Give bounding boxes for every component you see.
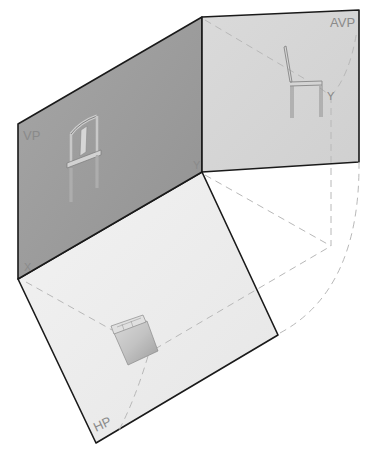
- x-axis-label: X: [24, 261, 32, 273]
- avp-label: AVP: [330, 15, 355, 30]
- y-axis-label-avp: Y: [327, 90, 335, 102]
- projection-diagram: VP AVP HP X Y Y: [0, 0, 370, 458]
- vp-label: VP: [23, 128, 40, 143]
- y-axis-label-vp: Y: [193, 159, 201, 171]
